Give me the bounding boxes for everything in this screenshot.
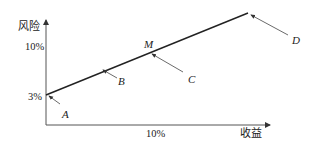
x-axis-label: 收益	[240, 126, 262, 140]
y-tick-10: 10%	[25, 41, 45, 52]
point-label-m: M	[143, 38, 154, 50]
point-label-b: B	[118, 75, 125, 87]
risk-return-line	[46, 13, 248, 95]
y-axis-label: 风险	[18, 19, 40, 33]
point-label-d: D	[291, 34, 300, 46]
point-label-c: C	[188, 73, 196, 85]
pointer-arrow-d	[251, 15, 288, 35]
pointer-arrow-a	[49, 96, 60, 104]
pointer-arrow-b	[103, 70, 117, 78]
x-tick-10: 10%	[146, 128, 166, 139]
y-tick-3: 3%	[28, 91, 42, 102]
point-label-a: A	[61, 108, 69, 120]
pointer-arrow-c	[152, 54, 183, 72]
risk-return-diagram: 风险 10% 3% 10% 收益 A B M C D	[0, 0, 317, 147]
